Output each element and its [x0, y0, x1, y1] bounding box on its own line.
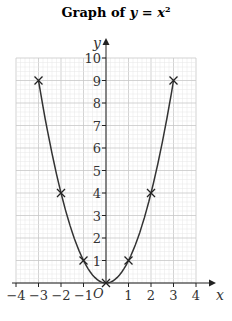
chart-title: Graph of y = x2 [61, 4, 170, 20]
svg-text:−1: −1 [74, 288, 93, 303]
svg-text:4: 4 [93, 186, 101, 201]
svg-text:1: 1 [124, 288, 132, 303]
svg-text:9: 9 [93, 74, 101, 89]
svg-text:−2: −2 [51, 288, 70, 303]
svg-text:1: 1 [93, 254, 101, 269]
svg-text:5: 5 [93, 164, 101, 179]
svg-text:10: 10 [84, 51, 101, 66]
svg-text:2: 2 [147, 288, 155, 303]
svg-text:−3: −3 [29, 288, 48, 303]
svg-text:−4: −4 [6, 288, 25, 303]
axes [12, 38, 216, 287]
svg-text:6: 6 [93, 141, 101, 156]
svg-text:3: 3 [93, 209, 101, 224]
svg-text:3: 3 [169, 288, 177, 303]
svg-text:x: x [216, 287, 224, 303]
svg-text:8: 8 [93, 96, 101, 111]
svg-text:2: 2 [93, 231, 101, 246]
svg-text:O: O [93, 286, 104, 301]
parabola-chart: Graph of y = x2 −4−3−2−1123412345678910x… [0, 0, 232, 321]
svg-text:y: y [92, 35, 102, 51]
svg-text:4: 4 [192, 288, 200, 303]
svg-text:7: 7 [93, 119, 101, 134]
